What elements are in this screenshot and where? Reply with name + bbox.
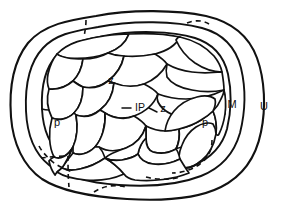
label-left-p: p	[54, 116, 60, 128]
label-inner-z: z	[160, 102, 166, 114]
label-outer-u: U	[260, 100, 268, 112]
line-drawing-svg: U M z IP z p p	[0, 0, 281, 204]
scale-cell-top-right	[176, 37, 222, 72]
dashed-top-right-arc	[187, 21, 209, 24]
ip-leader-right	[149, 108, 157, 112]
label-right-p: p	[202, 116, 208, 128]
label-margin-m: M	[227, 98, 236, 110]
label-inner-ip: IP	[135, 101, 145, 113]
dashed-bottom-center-arc	[94, 186, 126, 192]
left-p-cell-divider	[42, 109, 49, 110]
figure-container: U M z IP z p p	[0, 0, 281, 204]
label-upper-z: z	[108, 74, 114, 86]
